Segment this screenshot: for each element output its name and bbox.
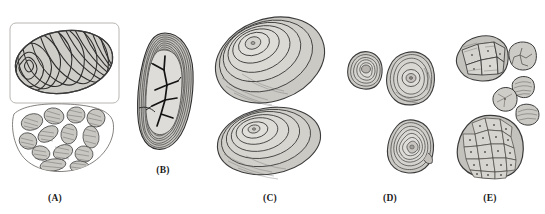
panel-b-label: (B) [143, 165, 183, 175]
specimen-small-fragment-round [493, 88, 517, 112]
specimen-large-cell-mass [457, 115, 523, 179]
specimen-star-pattern-fragment [509, 42, 537, 70]
specimen-small-square-nodule [348, 52, 382, 89]
specimen-figure-plate: (A) [0, 0, 545, 214]
panel-d-label: (D) [370, 193, 410, 203]
specimen-cracked-core-ovoid [138, 33, 194, 149]
panel-c-label: (C) [250, 193, 290, 203]
panel-e-label: (E) [470, 193, 510, 203]
specimen-flat-wide-ring-ovoid [212, 99, 326, 182]
panel-d [340, 40, 440, 185]
panel-b [135, 30, 197, 160]
panel-c [212, 8, 332, 186]
panel-a [8, 10, 123, 185]
panel-e [448, 22, 543, 184]
specimen-round-nucleus-nodule [387, 52, 435, 105]
panel-a-label: (A) [35, 193, 75, 203]
specimen-clast-aggregate [13, 104, 114, 174]
specimen-framed-banded-ovoid [11, 21, 143, 100]
specimen-triangular-nodule [387, 120, 433, 173]
specimen-upper-cell-cluster [456, 36, 508, 81]
specimen-small-fragment-oval [516, 104, 539, 125]
specimen-large-tilted-ring-ovoid [203, 2, 336, 117]
